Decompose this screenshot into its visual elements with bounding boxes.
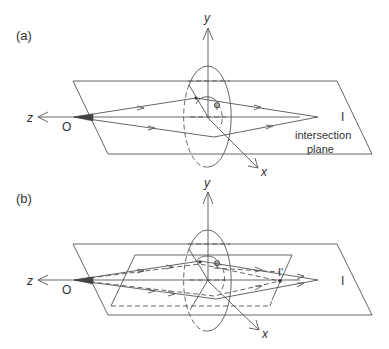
tilted-plane-solid (111, 255, 292, 306)
ray-upper (74, 98, 318, 117)
object-label: O (62, 120, 71, 134)
lens-top-left (189, 230, 208, 249)
panel-a: (a) z y x φ (16, 11, 372, 179)
x-axis (208, 281, 259, 330)
radial-line (189, 249, 208, 280)
image-prime-point-icon (278, 279, 282, 283)
x-axis-label: x (261, 327, 269, 341)
ray-point-icon (194, 96, 197, 99)
lens-top-left (189, 66, 208, 85)
image-label: I (341, 110, 344, 124)
x-axis-label: x (260, 165, 268, 179)
y-axis-label: y (203, 11, 211, 25)
lens-front (208, 230, 231, 331)
ray-arrow-icon (148, 289, 155, 293)
intersection-plane-label-line1: intersection (295, 129, 351, 141)
intersection-plane-label-line2: plane (307, 143, 334, 155)
radial-line (189, 85, 208, 117)
ray-upper-to-I-prime (74, 264, 280, 281)
z-axis-label: z (26, 274, 33, 288)
ray-arrow-icon (255, 286, 262, 290)
z-axis-label: z (26, 111, 33, 125)
panel-a-label: (a) (16, 28, 32, 43)
ray-lower (74, 117, 318, 137)
object-marker-icon (74, 114, 93, 121)
object-marker-icon (74, 277, 93, 284)
panel-b-label: (b) (16, 191, 32, 206)
optics-diagram: (a) z y x φ (0, 0, 389, 349)
ray-point-icon (198, 260, 201, 263)
object-label: O (62, 283, 71, 297)
y-axis-label: y (203, 176, 211, 190)
image-label: I (341, 274, 344, 288)
ray-lower-to-I (74, 280, 318, 299)
panel-b: (b) z y x φ (16, 176, 372, 341)
image-prime-label: I' (278, 266, 283, 278)
tilted-plane-corner-dashed (270, 300, 272, 306)
x-axis (208, 118, 258, 168)
